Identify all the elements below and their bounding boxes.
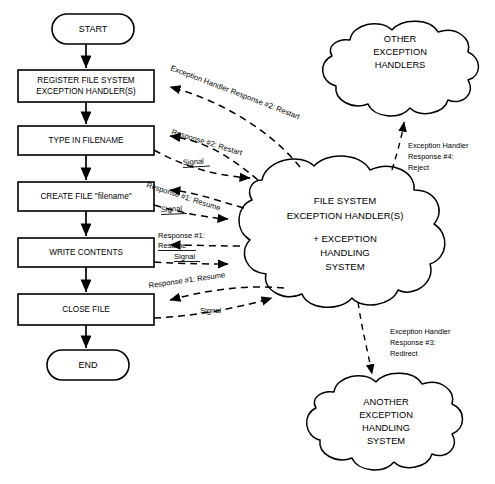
fs-handler-line2: EXCEPTION HANDLER(S) (287, 210, 404, 221)
close-label: CLOSE FILE (62, 305, 110, 314)
other-handlers-line1: OTHER (384, 34, 417, 44)
label-redirect-line1: Exception Handler (390, 327, 451, 336)
another-handling-line1: ANOTHER (363, 397, 409, 407)
another-handling-line4: SYSTEM (367, 436, 405, 446)
edge-response3-redirect-to-another-system (358, 302, 372, 374)
another-handling-line3: HANDLING (362, 423, 410, 433)
edge-response4-reject-to-other-handlers (392, 122, 404, 170)
label-response1-write-line2: Resume (158, 241, 186, 250)
edge-response1-resume-to-close (170, 287, 284, 300)
label-reject-line3: Reject (408, 163, 429, 172)
fs-handler-line4: HANDLING (320, 247, 370, 258)
start-label: START (79, 24, 108, 34)
flow-node-createfile: CREATE FILE "filename" (18, 182, 154, 211)
register-label-line2: EXCEPTION HANDLER(S) (36, 87, 136, 96)
flow-node-close: CLOSE FILE (18, 294, 154, 325)
register-shape (18, 70, 154, 102)
label-signal-typename: Signal (183, 157, 205, 167)
label-response1-write-line1: Response #1: (158, 231, 205, 240)
cloud-other-exception-handlers: OTHER EXCEPTION HANDLERS (323, 21, 479, 116)
other-handlers-line3: HANDLERS (375, 60, 426, 70)
label-redirect-line2: Response #3: (390, 338, 436, 347)
fs-handler-line3: + EXCEPTION (313, 233, 377, 244)
another-handling-line2: EXCEPTION (359, 410, 413, 420)
flow-node-end: END (47, 350, 129, 380)
write-label: WRITE CONTENTS (49, 248, 123, 257)
label-signal-write: Signal (174, 252, 195, 261)
label-reject-line1: Exception Handler (408, 141, 469, 150)
typename-label: TYPE IN FILENAME (48, 136, 124, 145)
flow-node-write: WRITE CONTENTS (18, 238, 154, 267)
flow-node-start: START (52, 14, 134, 44)
another-handling-cloud-shape (307, 373, 463, 470)
flow-node-typename: TYPE IN FILENAME (18, 126, 154, 155)
label-redirect-line3: Redirect (390, 349, 418, 358)
label-signal-createfile: Signal (161, 204, 183, 214)
createfile-label: CREATE FILE "filename" (40, 192, 131, 201)
flow-node-register: REGISTER FILE SYSTEM EXCEPTION HANDLER(S… (18, 70, 154, 102)
fs-handler-line5: SYSTEM (325, 261, 364, 272)
label-signal-close: Signal (200, 306, 221, 315)
label-reject-line2: Response #4: (408, 152, 454, 161)
other-handlers-line2: EXCEPTION (373, 47, 427, 57)
label-response2-restart: Response #2: Restart (170, 127, 244, 157)
label-response1-resume-close: Response #1: Resume (148, 270, 226, 290)
cloud-another-exception-handling-system: ANOTHER EXCEPTION HANDLING SYSTEM (307, 373, 463, 470)
edge-signal-from-write (154, 262, 228, 264)
diagram-canvas: START REGISTER FILE SYSTEM EXCEPTION HAN… (0, 0, 495, 484)
cloud-file-system-exception-handler: FILE SYSTEM EXCEPTION HANDLER(S) + EXCEP… (239, 156, 445, 307)
register-label-line1: REGISTER FILE SYSTEM (37, 76, 135, 85)
label-response1-resume-createfile: Response #1: Resume (145, 180, 221, 212)
flowchart-diagram: START REGISTER FILE SYSTEM EXCEPTION HAN… (0, 0, 495, 484)
end-label: END (78, 360, 98, 370)
fs-handler-line1: FILE SYSTEM (314, 195, 376, 206)
